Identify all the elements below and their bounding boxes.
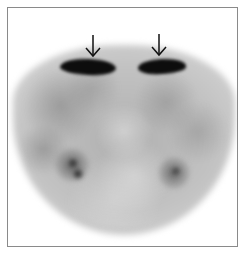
arrow-down-icon: [85, 35, 101, 59]
hotspot-right-dot: [171, 166, 181, 176]
arrow-down-icon: [151, 34, 167, 58]
hotspot-left-dot-2: [72, 168, 84, 180]
image-frame: [7, 7, 238, 247]
hotspot-left-dot-1: [68, 158, 78, 168]
